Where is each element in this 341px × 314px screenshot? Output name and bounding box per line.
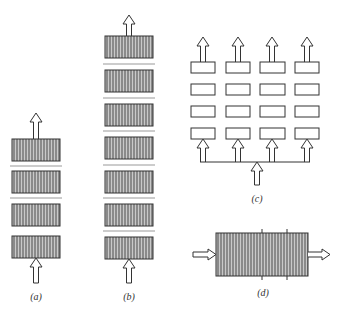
panel-b: (b) xyxy=(103,15,155,303)
module-c xyxy=(191,62,215,73)
module-c xyxy=(295,62,319,73)
module-c xyxy=(191,106,215,117)
panel-label-a: (a) xyxy=(30,291,42,303)
module-c xyxy=(226,84,250,95)
panel-c: (c) xyxy=(191,37,319,205)
panel-label-c: (c) xyxy=(251,193,263,205)
module-c xyxy=(191,128,215,139)
panel-d: (d) xyxy=(193,229,330,299)
feed-arrow-icon xyxy=(232,139,244,162)
module-b-6 xyxy=(105,204,153,226)
feed-arrow-icon xyxy=(301,139,313,162)
outlet-arrow-icon xyxy=(266,37,278,62)
panel-a: (a) xyxy=(10,113,62,303)
inlet-arrow-icon xyxy=(193,249,216,260)
inlet-arrow-icon xyxy=(251,162,263,185)
outlet-arrow-icon xyxy=(232,37,244,62)
module-a-2 xyxy=(12,171,60,193)
module-c xyxy=(295,84,319,95)
inlet-arrow-icon xyxy=(30,258,42,283)
module-grid xyxy=(191,62,319,139)
outlet-arrow-icon xyxy=(123,15,135,36)
outlet-arrow-icon xyxy=(301,37,313,62)
module-b-5 xyxy=(105,171,153,193)
module-c xyxy=(260,128,285,139)
module-c xyxy=(226,62,250,73)
feed-arrow-icon xyxy=(266,139,278,162)
module-c xyxy=(191,84,215,95)
feed-arrow-icon xyxy=(197,139,209,162)
module-c xyxy=(260,62,285,73)
module-c xyxy=(260,84,285,95)
module-b-2 xyxy=(105,70,153,92)
module-b-4 xyxy=(105,137,153,159)
module-b-1 xyxy=(105,36,153,58)
outlet-arrow-icon xyxy=(197,37,209,62)
diagram-canvas: (a) (b) xyxy=(0,0,341,314)
panel-label-d: (d) xyxy=(257,287,269,299)
module-c xyxy=(260,106,285,117)
outlet-arrow-icon xyxy=(30,113,42,139)
module-d xyxy=(216,233,308,276)
module-c xyxy=(295,106,319,117)
module-c xyxy=(226,106,250,117)
module-a-3 xyxy=(12,204,60,226)
panel-label-b: (b) xyxy=(123,291,135,303)
inlet-arrow-icon xyxy=(123,259,135,283)
outlet-arrow-icon xyxy=(308,249,330,260)
module-b-7 xyxy=(105,237,153,259)
module-b-3 xyxy=(105,104,153,126)
module-c xyxy=(226,128,250,139)
module-c xyxy=(295,128,319,139)
module-a-1 xyxy=(12,139,60,161)
module-a-4 xyxy=(12,236,60,258)
